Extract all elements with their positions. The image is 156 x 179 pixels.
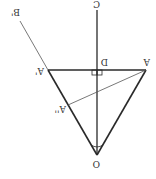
label-a-prime: A' (35, 66, 45, 76)
label-b-prime: B' (11, 7, 20, 17)
segment-a-a-double-prime (68, 70, 146, 105)
segment-a-prime-b-prime (20, 21, 48, 70)
segment-oa (97, 70, 146, 155)
label-c: C (93, 0, 100, 9)
label-a-double-prime: A'' (55, 104, 67, 114)
label-o: O (93, 159, 100, 169)
label-d: D (101, 57, 108, 67)
label-a: A (143, 57, 151, 67)
geometry-diagram: O C D A A' A'' B' (0, 0, 156, 179)
